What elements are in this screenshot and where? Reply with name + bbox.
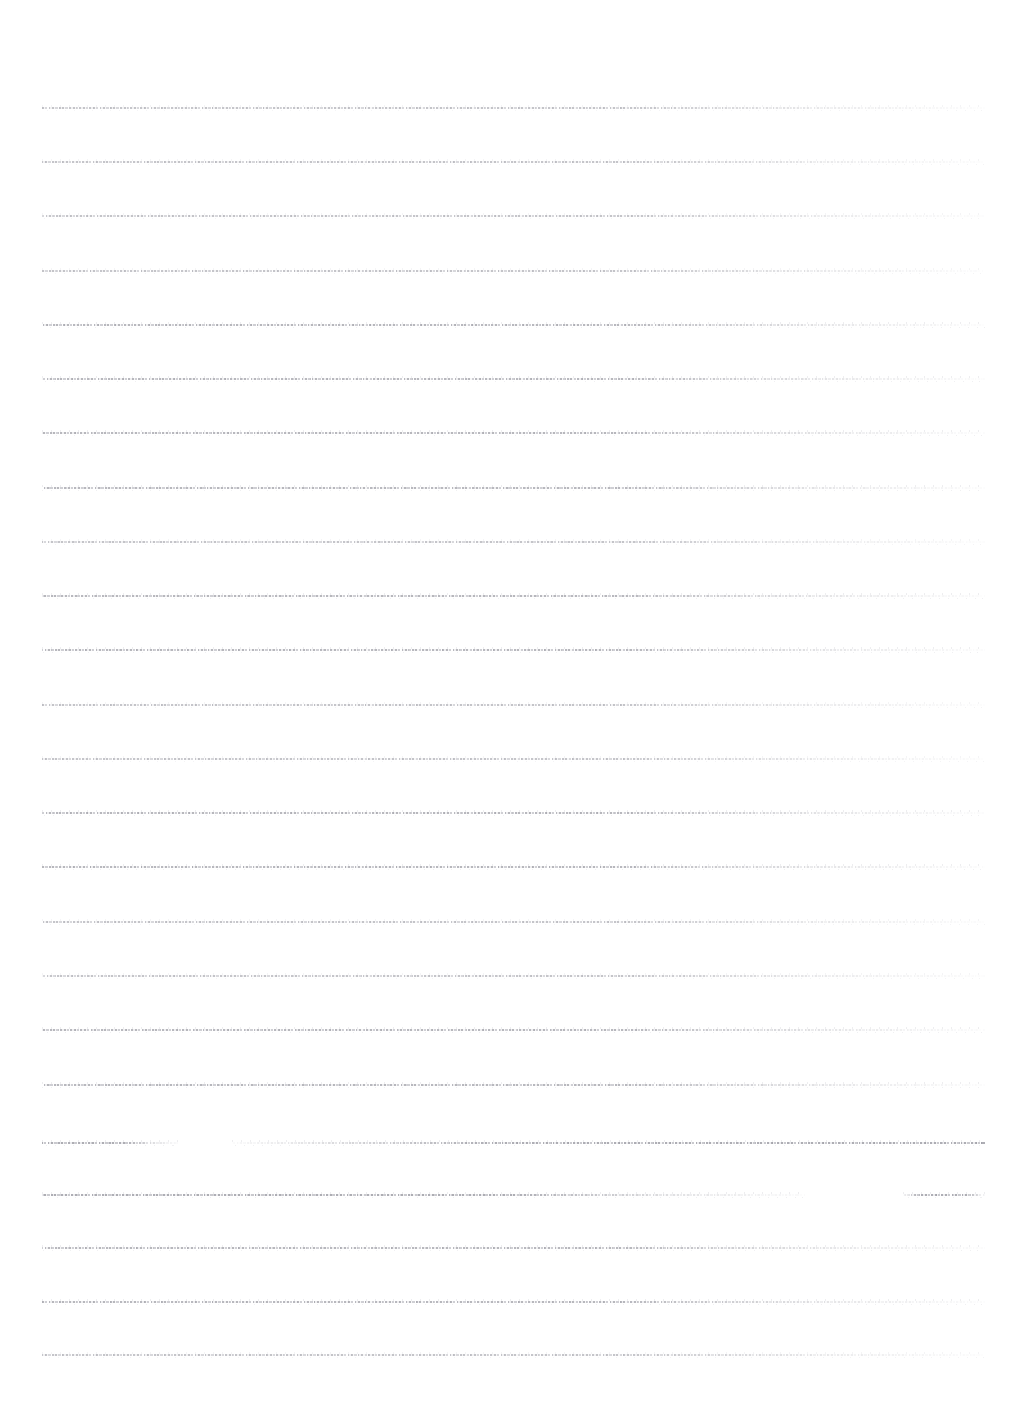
descender-ghost: [42, 164, 985, 166]
illegible-text-run: [42, 917, 985, 929]
illegible-text-run: [42, 700, 985, 712]
illegible-text-run: [42, 483, 985, 495]
text-line: [0, 1025, 1027, 1037]
descender-ghost: [232, 1145, 985, 1147]
descender-ghost: [42, 218, 985, 220]
text-line: [0, 591, 1027, 603]
text-line: [0, 754, 1027, 766]
illegible-text-run: [42, 591, 985, 603]
text-line: [0, 645, 1027, 657]
illegible-text-run: [42, 103, 985, 115]
text-line: [0, 483, 1027, 495]
illegible-text-run: [42, 537, 985, 549]
illegible-text-run: [42, 157, 985, 169]
descender-ghost: [42, 327, 985, 329]
text-line: [0, 428, 1027, 440]
illegible-text-run: [903, 1190, 985, 1202]
descender-ghost: [42, 1197, 805, 1199]
illegible-text-run: [42, 428, 985, 440]
illegible-text-run: [42, 1243, 985, 1255]
text-line: [0, 1080, 1027, 1092]
descender-ghost: [42, 761, 985, 763]
document-text-block: [0, 0, 1027, 1412]
illegible-text-run: [42, 808, 985, 820]
text-line: [0, 1190, 1027, 1202]
text-line: [0, 700, 1027, 712]
text-line: [0, 862, 1027, 874]
descender-ghost: [42, 652, 985, 654]
descender-ghost: [42, 707, 985, 709]
illegible-text-run: [42, 1350, 985, 1362]
descender-ghost: [42, 381, 985, 383]
descender-ghost: [42, 869, 985, 871]
text-line: [0, 1243, 1027, 1255]
illegible-text-run: [42, 211, 985, 223]
descender-ghost: [42, 1304, 985, 1306]
descender-ghost: [42, 110, 985, 112]
illegible-text-run: [42, 1190, 805, 1202]
descender-ghost: [42, 273, 985, 275]
descender-ghost: [42, 435, 985, 437]
illegible-text-run: [42, 374, 985, 386]
descender-ghost: [42, 598, 985, 600]
illegible-text-run: [42, 1080, 985, 1092]
illegible-text-run: [42, 1025, 985, 1037]
text-line: [0, 537, 1027, 549]
text-line: [0, 103, 1027, 115]
illegible-text-run: [42, 645, 985, 657]
illegible-text-run: [42, 862, 985, 874]
illegible-text-run: [42, 320, 985, 332]
text-line: [0, 917, 1027, 929]
descender-ghost: [42, 1357, 985, 1359]
scanned-page: [0, 0, 1027, 1412]
descender-ghost: [903, 1197, 985, 1199]
illegible-text-run: [42, 1138, 178, 1150]
text-line: [0, 374, 1027, 386]
descender-ghost: [42, 544, 985, 546]
text-line: [0, 971, 1027, 983]
descender-ghost: [42, 1250, 985, 1252]
text-line: [0, 1350, 1027, 1362]
text-line: [0, 266, 1027, 278]
text-line: [0, 808, 1027, 820]
illegible-text-run: [42, 266, 985, 278]
descender-ghost: [42, 1032, 985, 1034]
illegible-text-run: [42, 1297, 985, 1309]
illegible-text-run: [42, 971, 985, 983]
text-line: [0, 1297, 1027, 1309]
descender-ghost: [42, 815, 985, 817]
illegible-text-run: [232, 1138, 985, 1150]
descender-ghost: [42, 978, 985, 980]
descender-ghost: [42, 1145, 178, 1147]
descender-ghost: [42, 1087, 985, 1089]
text-line: [0, 211, 1027, 223]
text-line: [0, 157, 1027, 169]
text-line: [0, 320, 1027, 332]
descender-ghost: [42, 924, 985, 926]
illegible-text-run: [42, 754, 985, 766]
text-line: [0, 1138, 1027, 1150]
descender-ghost: [42, 490, 985, 492]
